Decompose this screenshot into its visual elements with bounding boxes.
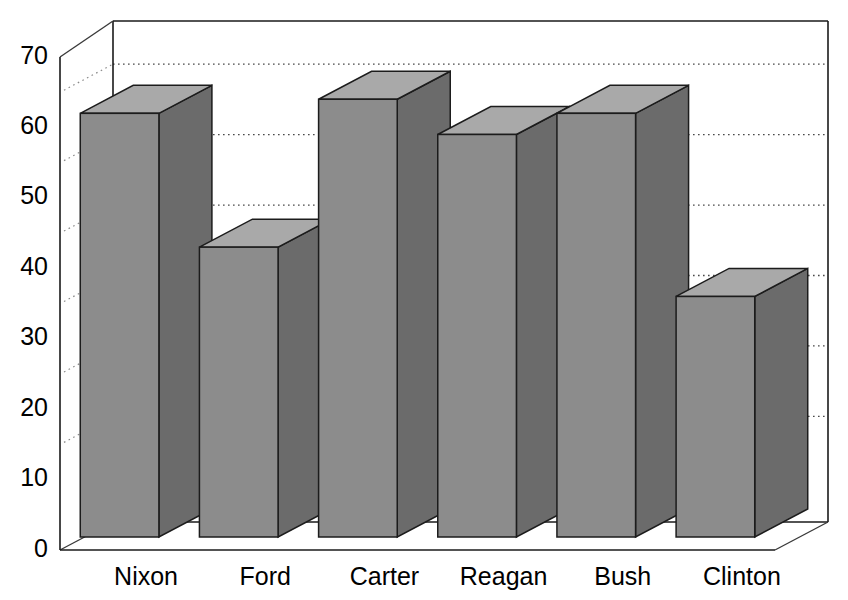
xtick-label-ford: Ford	[240, 562, 291, 590]
bar-front-face	[438, 134, 517, 537]
bar-bush[interactable]	[557, 85, 689, 537]
ytick-label: 70	[20, 41, 48, 69]
bar-chart-figure: 010203040506070 NixonFordCarterReaganBus…	[0, 0, 848, 600]
xtick-label-nixon: Nixon	[114, 562, 178, 590]
bar-front-face	[80, 113, 159, 537]
bar-carter[interactable]	[319, 71, 451, 537]
y-axis-tick-labels: 010203040506070	[20, 41, 48, 562]
axis-depth-diagonal-top	[60, 21, 113, 57]
ytick-label: 40	[20, 252, 48, 280]
gridline-depth	[64, 64, 113, 90]
bar-front-face	[557, 113, 636, 537]
ytick-label: 30	[20, 322, 48, 350]
ytick-label: 20	[20, 393, 48, 421]
xtick-label-bush: Bush	[594, 562, 651, 590]
ytick-label: 50	[20, 181, 48, 209]
bar-front-face	[199, 247, 278, 537]
ytick-label: 0	[34, 534, 48, 562]
bar-nixon[interactable]	[80, 85, 212, 537]
bar-front-face	[676, 296, 755, 537]
bar-clinton[interactable]	[676, 268, 808, 537]
ytick-label: 60	[20, 111, 48, 139]
xtick-label-clinton: Clinton	[703, 562, 781, 590]
bar-ford[interactable]	[199, 219, 331, 537]
xtick-label-carter: Carter	[350, 562, 419, 590]
bar-side-face	[755, 268, 808, 537]
xtick-label-reagan: Reagan	[460, 562, 548, 590]
chart-canvas: 010203040506070 NixonFordCarterReaganBus…	[0, 0, 848, 600]
x-axis-tick-labels: NixonFordCarterReaganBushClinton	[114, 562, 781, 590]
bar-reagan[interactable]	[438, 106, 570, 537]
ytick-label: 10	[20, 463, 48, 491]
bar-front-face	[319, 99, 398, 537]
